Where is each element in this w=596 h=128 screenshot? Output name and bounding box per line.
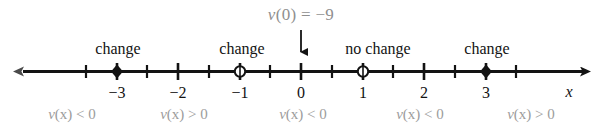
sign-label-interval-3: v(x) < 0 <box>279 107 327 122</box>
change-label-pos3: change <box>464 41 509 57</box>
tick-label-neg3: −3 <box>108 85 125 101</box>
sign-label-interval-5: v(x) > 0 <box>507 107 555 122</box>
number-line-figure: v(0) = −9 change change no change change… <box>0 0 596 128</box>
sign-label-interval-1: v(x) < 0 <box>48 107 96 122</box>
marker-filled-pos3 <box>480 65 492 79</box>
change-label-neg1: change <box>219 41 264 57</box>
tick-label-zero: 0 <box>297 85 305 101</box>
sign-label-interval-4: v(x) < 0 <box>396 107 444 122</box>
change-label-pos1: no change <box>345 41 410 57</box>
sign-label-interval-2: v(x) > 0 <box>160 107 208 122</box>
marker-filled-neg3 <box>111 65 123 79</box>
callout-label: v(0) = −9 <box>268 6 334 23</box>
tick-label-pos3: 3 <box>482 85 490 101</box>
tick-label-pos2: 2 <box>420 85 428 101</box>
tick-label-neg2: −2 <box>169 85 186 101</box>
axis-label-x: x <box>565 84 572 100</box>
tick-label-neg1: −1 <box>231 85 248 101</box>
change-label-neg3: change <box>95 41 140 57</box>
tick-label-pos1: 1 <box>359 85 367 101</box>
